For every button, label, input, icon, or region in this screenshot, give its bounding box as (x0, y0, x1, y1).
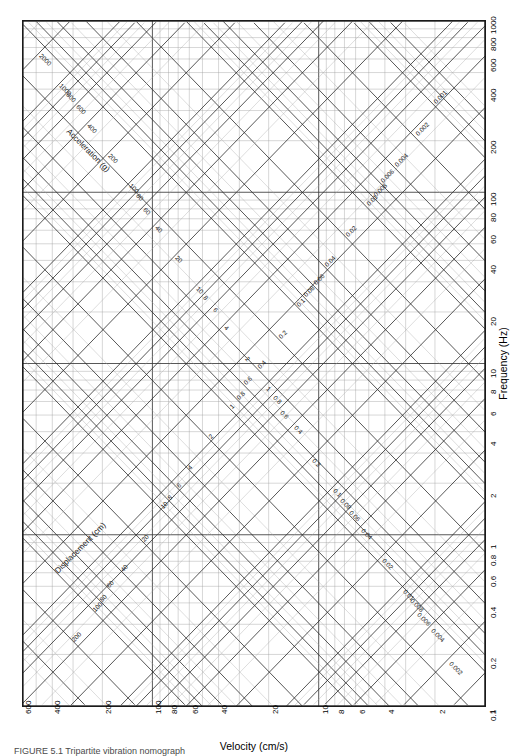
velocity-tick-label: 10 (322, 705, 330, 714)
figure-page: Displacement (cm) Acceleration (g) 0.001… (0, 0, 526, 756)
velocity-tick-label: 20 (272, 705, 280, 714)
frequency-tick-label: 0.1 (490, 710, 498, 721)
velocity-tick-label: 60 (192, 705, 200, 714)
velocity-tick-label: 200 (105, 701, 113, 714)
frequency-axis-title: Frequency (Hz) (497, 20, 511, 707)
velocity-tick-label: 600 (25, 701, 33, 714)
velocity-tick-label: 80 (171, 705, 179, 714)
velocity-tick-label: 8 (338, 710, 346, 714)
velocity-tick-label: 100 (155, 701, 163, 714)
velocity-tick-label: 2 (439, 710, 447, 714)
velocity-tick-label: 6 (359, 710, 367, 714)
velocity-tick-label: 4 (388, 710, 396, 714)
velocity-tick-label: 400 (54, 701, 62, 714)
figure-caption: FIGURE 5.1 Tripartite vibration nomograp… (14, 746, 514, 756)
nomograph-plot-area: Displacement (cm) Acceleration (g) 0.001… (22, 20, 486, 707)
velocity-tick-label: 40 (221, 705, 229, 714)
